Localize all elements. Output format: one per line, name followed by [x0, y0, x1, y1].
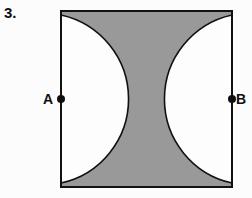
point-b-label: B: [236, 92, 252, 106]
point-b-dot: [228, 95, 236, 103]
point-a-dot: [57, 95, 65, 103]
geometry-figure: 3. A B: [0, 0, 252, 198]
point-a-label: A: [37, 92, 53, 106]
